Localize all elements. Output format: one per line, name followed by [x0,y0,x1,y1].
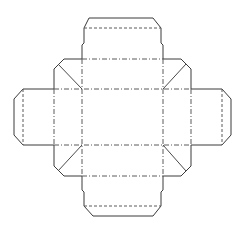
background [0,0,243,230]
box-net-diagram [0,0,243,230]
